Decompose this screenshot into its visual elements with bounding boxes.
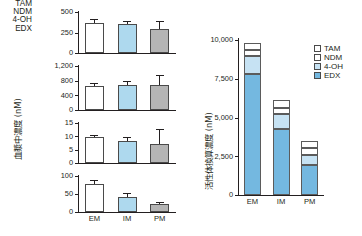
activity-segment-edx — [244, 74, 261, 195]
ndm-panel-ytick — [75, 95, 78, 96]
tam-panel-error-bar — [159, 21, 160, 28]
four-oh-panel-bar — [85, 137, 104, 163]
tam-panel-error-cap — [156, 21, 164, 22]
edx-panel-ytick — [75, 194, 78, 195]
legend-item: EDX — [314, 71, 360, 80]
figure-root: TAM0250500NDM04008001,2004-OH051015EDX05… — [0, 0, 362, 236]
legend-swatch — [314, 54, 321, 61]
activity-ytick-label: 5,000 — [195, 114, 233, 121]
activity-segment-4oh — [301, 155, 318, 165]
edx-panel-ytick — [75, 176, 78, 177]
four-oh-panel-ytick-label: 15 — [38, 119, 73, 126]
four-oh-panel-ytick — [75, 150, 78, 151]
ndm-panel-bar — [85, 86, 104, 110]
legend-label: EDX — [324, 72, 340, 80]
edx-panel-error-cap — [90, 180, 98, 181]
ndm-panel-error-bar — [159, 75, 160, 85]
four-oh-panel-ytick — [75, 136, 78, 137]
tam-panel-ytick-label: 500 — [38, 8, 73, 15]
edx-panel-bar — [85, 184, 104, 212]
four-oh-panel-bar — [150, 144, 169, 163]
tam-panel-ytick — [75, 33, 78, 34]
legend-swatch — [314, 72, 321, 79]
activity-cat-label: EM — [236, 198, 268, 206]
four-oh-panel-error-cap — [156, 129, 164, 130]
ndm-panel-y-axis — [78, 65, 79, 110]
four-oh-panel-ytick-label: 10 — [38, 133, 73, 140]
ndm-panel-ytick — [75, 81, 78, 82]
ndm-panel-x-axis — [78, 110, 176, 111]
left-ylabel: 血漿中濃度 (nM) — [11, 98, 23, 160]
ndm-panel-ytick-label: 1,200 — [38, 62, 73, 69]
four-oh-panel-ytick — [75, 123, 78, 124]
tam-panel-ytick — [75, 53, 78, 54]
edx-panel-ytick-label: 100 — [38, 172, 73, 179]
edx-panel-cat-label: PM — [144, 215, 176, 223]
ndm-panel-bar — [118, 85, 137, 110]
activity-ytick — [235, 79, 238, 80]
ndm-panel-ytick — [75, 66, 78, 67]
activity-ytick — [235, 195, 238, 196]
edx-panel-error-cap — [156, 202, 164, 203]
four-oh-panel-error-cap — [90, 135, 98, 136]
legend: TAMNDM4-OHEDX — [314, 44, 360, 80]
ndm-panel-error-cap — [123, 81, 131, 82]
legend-swatch — [314, 63, 321, 70]
activity-segment-edx — [273, 129, 290, 195]
four-oh-panel-ytick — [75, 163, 78, 164]
legend-item: TAM — [314, 44, 360, 53]
tam-panel-error-cap — [123, 21, 131, 22]
activity-segment-tam — [244, 43, 261, 50]
ndm-panel-error-cap — [90, 83, 98, 84]
edx-panel-ytick — [75, 212, 78, 213]
four-oh-panel-error-bar — [159, 129, 160, 143]
legend-item: NDM — [314, 53, 360, 62]
tam-panel-bar — [118, 24, 137, 53]
edx-panel-ytick-label: 0 — [38, 208, 73, 215]
edx-panel-ytick-label: 50 — [38, 190, 73, 197]
ndm-panel-ytick-label: 400 — [38, 92, 73, 99]
activity-segment-edx — [301, 165, 318, 195]
ndm-panel-ytick-label: 800 — [38, 77, 73, 84]
activity-segment-ndm — [244, 50, 261, 57]
tam-panel-bar — [150, 29, 169, 53]
activity-ytick — [235, 118, 238, 119]
activity-ylabel: 活性体換算濃度 (nM) — [202, 112, 214, 190]
activity-segment-tam — [273, 100, 290, 107]
legend-label: NDM — [324, 54, 342, 62]
legend-swatch — [314, 45, 321, 52]
activity-ytick — [235, 40, 238, 41]
edx-panel-bar — [150, 204, 169, 212]
four-oh-panel-ytick-label: 0 — [38, 159, 73, 166]
activity-cat-label: IM — [265, 198, 297, 206]
four-oh-panel-bar — [118, 141, 137, 163]
activity-ytick-label: 10,000 — [195, 36, 233, 43]
ndm-panel-bar — [150, 85, 169, 110]
activity-ytick-label: 2,500 — [195, 153, 233, 160]
legend-label: TAM — [324, 45, 340, 53]
activity-ytick-label: 7,500 — [195, 75, 233, 82]
four-oh-panel-y-axis — [78, 122, 79, 163]
tam-panel-y-axis — [78, 11, 79, 53]
tam-panel-x-axis — [78, 53, 176, 54]
edx-panel-cat-label: EM — [78, 215, 110, 223]
activity-y-axis — [238, 38, 239, 195]
activity-segment-tam — [301, 141, 318, 148]
edx-panel-y-axis — [78, 175, 79, 212]
four-oh-panel-ytick-label: 5 — [38, 146, 73, 153]
activity-segment-4oh — [244, 56, 261, 74]
activity-cat-label: PM — [294, 198, 326, 206]
edx-panel-error-cap — [123, 193, 131, 194]
activity-segment-ndm — [273, 108, 290, 115]
ndm-panel-ytick — [75, 110, 78, 111]
ndm-panel-ytick-label: 0 — [38, 106, 73, 113]
edx-panel-x-axis — [78, 212, 176, 213]
tam-panel-bar — [85, 23, 104, 53]
four-oh-panel-error-cap — [123, 137, 131, 138]
edx-panel-cat-label: IM — [111, 215, 143, 223]
activity-x-axis — [238, 195, 324, 196]
activity-ytick-label: 0 — [195, 191, 233, 198]
tam-panel-ytick-label: 0 — [38, 49, 73, 56]
activity-segment-4oh — [273, 114, 290, 129]
four-oh-panel-x-axis — [78, 163, 176, 164]
